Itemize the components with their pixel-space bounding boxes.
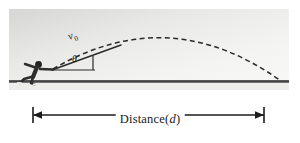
athlete-rear-shoe — [17, 82, 23, 85]
panel-background — [9, 9, 289, 90]
scene-graphic — [9, 9, 289, 90]
athlete-throwing-arm — [40, 69, 53, 70]
ground-foreground — [9, 83, 289, 90]
illustration-panel — [9, 9, 289, 90]
distance-word: Distance — [120, 112, 165, 126]
launch-angle-label: θ — [72, 54, 77, 64]
dimension-left-arrowhead — [33, 111, 42, 118]
projectile-motion-figure: v0 θ Distance(d) — [0, 0, 300, 143]
dimension-right-arrowhead — [255, 111, 264, 118]
athlete-front-shoe — [33, 83, 39, 86]
distance-label: Distance(d) — [116, 113, 185, 126]
ground-line — [9, 80, 289, 83]
distance-paren-close: ) — [176, 112, 180, 126]
